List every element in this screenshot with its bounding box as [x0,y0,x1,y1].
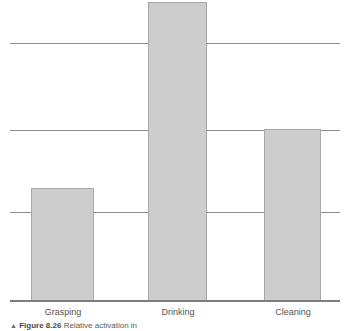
bar-cleaning[interactable] [264,129,321,301]
x-axis-baseline [10,300,340,302]
caption-triangle-icon: ▲ [10,322,17,329]
figure-container: Grasping Drinking Cleaning ▲ Figure 8.26… [0,0,349,331]
x-label-drinking: Drinking [137,305,219,319]
caption-figure-number: Figure 8.26 [19,321,61,330]
x-axis-category-labels: Grasping Drinking Cleaning [0,305,349,321]
bar-grasping[interactable] [31,188,94,301]
figure-caption: ▲ Figure 8.26 Relative activation in [10,321,349,331]
caption-text: Relative activation in [64,321,137,330]
x-label-cleaning: Cleaning [252,305,334,319]
bar-chart-plot-area [0,0,349,305]
x-label-grasping: Grasping [22,305,104,319]
bar-drinking[interactable] [148,2,207,301]
